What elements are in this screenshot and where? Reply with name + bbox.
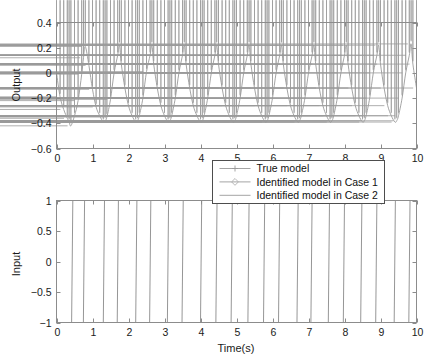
x-tick-label: 2 [127,152,133,164]
x-tick-label: 2 [127,326,133,338]
legend-item-label: Identified model in Case 2 [257,189,379,201]
x-tick-label: 4 [199,152,205,164]
y-tick-label: −0.6 [31,143,52,155]
figure-svg: 012345678910 −0.6−0.4−0.200.20.4 Output … [0,0,430,362]
input-y-axis-title: Input [10,252,22,276]
legend-item-label: True model [257,162,310,174]
x-tick-label: 9 [379,326,385,338]
x-tick-label: 7 [307,326,313,338]
y-tick-label: 0.2 [37,42,52,54]
x-tick-label: 3 [163,326,169,338]
y-tick-label: −0.5 [31,286,52,298]
x-tick-label: 10 [412,152,424,164]
x-tick-label: 0 [55,152,61,164]
legend[interactable]: True modelIdentified model in Case 1Iden… [213,161,385,204]
x-tick-label: 5 [235,326,241,338]
x-tick-label: 10 [412,326,424,338]
x-tick-label: 4 [199,326,205,338]
figure-container: 012345678910 −0.6−0.4−0.200.20.4 Output … [0,0,430,362]
x-tick-label: 8 [343,326,349,338]
legend-item-label: Identified model in Case 1 [257,176,379,188]
x-tick-label: 0 [55,326,61,338]
output-y-axis-title: Output [10,68,22,101]
y-tick-label: 0.5 [37,225,52,237]
input-x-axis-title: Time(s) [218,342,255,354]
y-tick-label: 0 [46,67,52,79]
y-tick-label: 0.4 [37,17,52,29]
y-tick-label: −0.4 [31,117,52,129]
y-tick-label: 0 [46,256,52,268]
y-tick-label: −0.2 [31,92,52,104]
y-tick-label: 1 [46,195,52,207]
x-tick-label: 6 [271,326,277,338]
x-tick-label: 1 [91,326,97,338]
y-tick-label: −1 [40,317,52,329]
x-tick-label: 3 [163,152,169,164]
x-tick-label: 1 [91,152,97,164]
